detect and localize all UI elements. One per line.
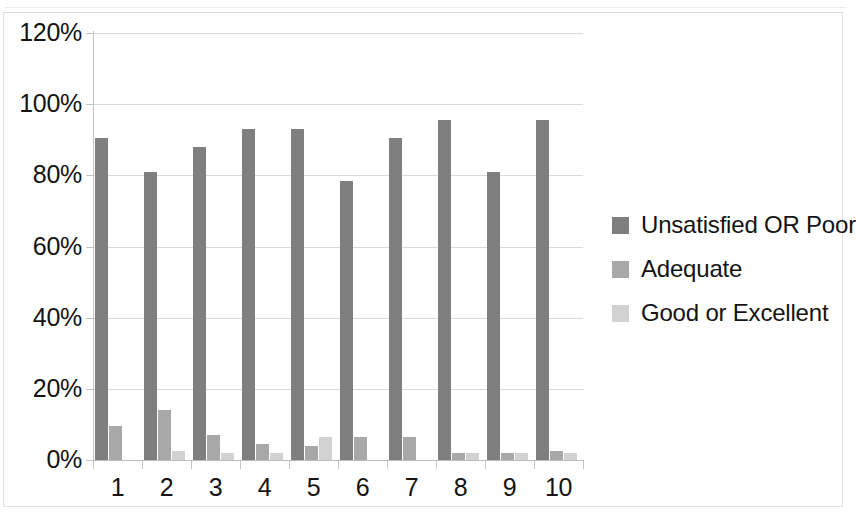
y-axis-tick-label: 80%	[6, 162, 82, 187]
x-tick-mark	[436, 461, 437, 469]
bar-group	[240, 33, 289, 460]
bar[interactable]	[158, 410, 171, 460]
bar[interactable]	[389, 138, 402, 460]
bar-group	[436, 33, 485, 460]
y-axis-tick-label: 100%	[6, 91, 82, 116]
x-axis-tick-label: 1	[111, 474, 125, 500]
x-tick-mark	[191, 461, 192, 469]
bar-group	[289, 33, 338, 460]
legend-item-label: Unsatisfied OR Poor	[641, 212, 856, 238]
x-axis-tick-label: 7	[405, 474, 419, 500]
bar[interactable]	[550, 451, 563, 460]
x-tick-mark	[387, 461, 388, 469]
bar[interactable]	[487, 172, 500, 460]
bar-group	[387, 33, 436, 460]
x-axis-tick-label: 5	[307, 474, 321, 500]
bar[interactable]	[340, 181, 353, 460]
x-tick-mark	[485, 461, 486, 469]
x-axis-tick-label: 9	[503, 474, 517, 500]
y-axis-tick-label: 60%	[6, 234, 82, 259]
legend-swatch-icon	[612, 217, 629, 234]
x-tick-mark	[142, 461, 143, 469]
y-axis-tick-label: 0%	[6, 447, 82, 472]
x-tick-mark	[534, 461, 535, 469]
legend-item-label: Adequate	[641, 256, 742, 282]
legend-swatch-icon	[612, 305, 629, 322]
bar[interactable]	[536, 120, 549, 460]
bar[interactable]	[403, 437, 416, 460]
y-axis-tick-label: 20%	[6, 376, 82, 401]
bar[interactable]	[242, 129, 255, 460]
x-axis-tick-label: 3	[209, 474, 223, 500]
bar[interactable]	[221, 453, 234, 460]
bar-group	[534, 33, 583, 460]
bar[interactable]	[452, 453, 465, 460]
bar[interactable]	[207, 435, 220, 460]
bar[interactable]	[501, 453, 514, 460]
bar[interactable]	[319, 437, 332, 460]
bar[interactable]	[515, 453, 528, 460]
bars-layer	[93, 33, 583, 460]
x-tick-mark	[338, 461, 339, 469]
legend-swatch-icon	[612, 261, 629, 278]
y-axis-labels: 0%20%40%60%80%100%120%	[0, 0, 82, 519]
x-tick-mark	[240, 461, 241, 469]
x-tick-mark	[583, 461, 584, 469]
bar[interactable]	[270, 453, 283, 460]
y-axis-tick-label: 40%	[6, 305, 82, 330]
bar[interactable]	[466, 453, 479, 460]
x-axis-tick-label: 2	[160, 474, 174, 500]
legend-item[interactable]: Adequate	[612, 247, 842, 291]
x-axis-tick-label: 10	[545, 474, 572, 500]
bar[interactable]	[305, 446, 318, 460]
x-axis-tick-label: 4	[258, 474, 272, 500]
bar[interactable]	[95, 138, 108, 460]
x-axis-tick-label: 8	[454, 474, 468, 500]
x-tick-mark	[289, 461, 290, 469]
x-tick-mark	[93, 461, 94, 469]
bar[interactable]	[438, 120, 451, 460]
bar[interactable]	[193, 147, 206, 460]
bar[interactable]	[564, 453, 577, 460]
bar-group	[142, 33, 191, 460]
bar[interactable]	[256, 444, 269, 460]
scan-edge-top	[4, 7, 846, 8]
bar[interactable]	[354, 437, 367, 460]
bar-group	[485, 33, 534, 460]
bar-group	[338, 33, 387, 460]
legend-item[interactable]: Good or Excellent	[612, 291, 842, 335]
legend-item[interactable]: Unsatisfied OR Poor	[612, 203, 842, 247]
bar[interactable]	[144, 172, 157, 460]
chart-legend: Unsatisfied OR PoorAdequateGood or Excel…	[612, 203, 842, 335]
x-axis-tick-label: 6	[356, 474, 370, 500]
bar-group	[191, 33, 240, 460]
y-axis-tick-label: 120%	[6, 20, 82, 45]
bar-group	[93, 33, 142, 460]
legend-item-label: Good or Excellent	[641, 300, 828, 326]
bar[interactable]	[172, 451, 185, 460]
bar[interactable]	[109, 426, 122, 460]
bar[interactable]	[291, 129, 304, 460]
